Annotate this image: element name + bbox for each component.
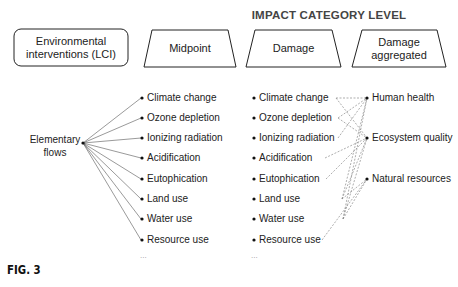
midpoint-item: Eutophication — [147, 173, 208, 184]
midpoint-dots — [140, 96, 143, 241]
midpoint-item: Resource use — [147, 234, 209, 245]
midpoint-item: Water use — [147, 213, 192, 224]
midpoint-label: Midpoint — [144, 30, 236, 67]
damage-item: Ozone depletion — [259, 112, 332, 123]
damage-item: Eutophication — [259, 173, 320, 184]
elementary-flows-label: Elementary flows — [20, 133, 90, 159]
aggregated-item-natural-resources: Natural resources — [372, 173, 451, 184]
midpoint-item: Acidification — [147, 152, 200, 163]
midpoint-item: Ionizing radiation — [147, 132, 223, 143]
damage-item: Water use — [259, 213, 304, 224]
damage-item: Acidification — [259, 152, 312, 163]
damage-dots — [252, 96, 255, 241]
aggregated-item-human-health: Human health — [372, 92, 434, 103]
midpoint-item: Ozone depletion — [147, 112, 220, 123]
damage-label: Damage — [246, 30, 341, 67]
damage-item: Climate change — [259, 92, 328, 103]
midpoint-ellipsis: ... — [140, 251, 147, 260]
aggregated-dots — [365, 96, 368, 180]
damage-ellipsis: ... — [251, 251, 258, 260]
lci-label: Environmental interventions (LCI) — [14, 29, 128, 66]
aggregated-item-ecosystem-quality: Ecosystem quality — [372, 132, 453, 143]
damage-item: Ionizing radiation — [259, 132, 335, 143]
damage-item: Resource use — [259, 234, 321, 245]
midpoint-item: Climate change — [147, 92, 216, 103]
midpoint-item: Land use — [147, 193, 188, 204]
elementary-flow-lines — [83, 98, 141, 240]
figure-label: FIG. 3 — [7, 263, 41, 277]
damage-aggregated-label: Damage aggregated — [352, 30, 446, 67]
damage-item: Land use — [259, 193, 300, 204]
